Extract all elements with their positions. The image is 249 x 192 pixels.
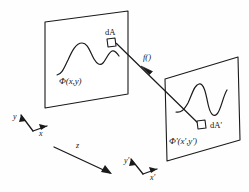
dA-label: dA bbox=[105, 28, 115, 37]
axis-label-x: x bbox=[39, 130, 43, 138]
image-plane-waveform bbox=[176, 84, 227, 115]
propagation-axis-group bbox=[54, 147, 112, 174]
figure-canvas: Φ(x,y) dA f() Φ'(x',y') dA' y x z y' x' bbox=[0, 0, 249, 192]
axis-label-y: y bbox=[13, 113, 17, 121]
axis-z-line bbox=[54, 147, 110, 173]
ray-function-label: f() bbox=[143, 53, 151, 62]
dA-element bbox=[107, 38, 116, 47]
axis-label-y-prime: y' bbox=[124, 157, 129, 165]
dA-prime-label: dA' bbox=[210, 121, 222, 130]
ray-line bbox=[117, 44, 202, 127]
object-plane-outline bbox=[45, 11, 128, 108]
axis-label-z: z bbox=[76, 142, 79, 150]
object-plane-group bbox=[45, 11, 128, 108]
object-field-label: Φ(x,y) bbox=[59, 77, 82, 86]
axis-z-arrowhead bbox=[101, 165, 112, 174]
image-field-label: Φ'(x',y') bbox=[169, 137, 197, 146]
axis-label-x-prime: x' bbox=[150, 174, 155, 182]
dA-prime-element bbox=[197, 120, 206, 129]
image-axes-group bbox=[129, 159, 157, 174]
ray-group bbox=[117, 44, 202, 127]
